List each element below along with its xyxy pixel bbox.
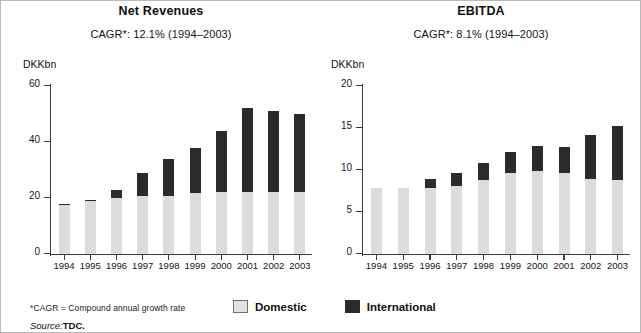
bar-2000 xyxy=(532,146,543,254)
bar-segment-international xyxy=(505,152,516,173)
bar-1998 xyxy=(163,159,174,254)
chart-subtitle-ebitda: CAGR*: 8.1% (1994–2003) xyxy=(321,28,641,40)
bar-2001 xyxy=(559,147,570,254)
x-tick-label: 1996 xyxy=(419,260,440,271)
x-tick-label: 1994 xyxy=(366,260,387,271)
y-tick-label: 0 xyxy=(346,246,352,257)
x-tick-label: 1999 xyxy=(185,260,206,271)
x-tick-label: 1999 xyxy=(500,260,521,271)
y-tick-label: 40 xyxy=(29,134,40,145)
bar-1995 xyxy=(85,200,96,254)
bar-segment-domestic xyxy=(242,192,253,254)
bar-segment-domestic xyxy=(111,198,122,254)
y-tick-label: 20 xyxy=(341,78,352,89)
bar-segment-domestic xyxy=(585,179,596,254)
plot-area-net-revenues: 0204060199419951996199719981999200020012… xyxy=(51,86,313,254)
chart-page: Net Revenues CAGR*: 12.1% (1994–2003) DK… xyxy=(0,0,641,333)
bar-segment-domestic xyxy=(371,188,382,254)
bar-segment-domestic xyxy=(59,205,70,254)
y-axis-unit-net-revenues: DKKbn xyxy=(23,58,56,70)
bar-1997 xyxy=(137,173,148,254)
legend-item-domestic: Domestic xyxy=(233,300,307,313)
bar-2003 xyxy=(294,114,305,254)
chart-panel-net-revenues: Net Revenues CAGR*: 12.1% (1994–2003) DK… xyxy=(1,1,321,291)
bar-segment-international xyxy=(190,148,201,193)
x-tick-label: 1998 xyxy=(158,260,179,271)
bar-segment-domestic xyxy=(190,193,201,254)
bar-segment-domestic xyxy=(216,192,227,254)
bar-segment-domestic xyxy=(559,173,570,254)
legend-label-domestic: Domestic xyxy=(255,301,307,313)
y-tick-label: 0 xyxy=(34,246,40,257)
bar-segment-domestic xyxy=(425,188,436,254)
y-tick-label: 10 xyxy=(341,162,352,173)
legend-item-international: International xyxy=(345,300,436,313)
chart-title-ebitda: EBITDA xyxy=(321,4,641,18)
bar-segment-domestic xyxy=(294,192,305,254)
x-tick-label: 2002 xyxy=(580,260,601,271)
legend-swatch-international-icon xyxy=(345,300,360,313)
y-tick: 0 xyxy=(44,253,51,254)
y-axis-line xyxy=(362,84,363,256)
bar-segment-international xyxy=(85,200,96,201)
bar-segment-domestic xyxy=(478,180,489,254)
cagr-footnote: *CAGR = Compound annual growth rate xyxy=(30,303,185,313)
x-tick-label: 2001 xyxy=(553,260,574,271)
y-tick: 10 xyxy=(356,169,363,170)
y-tick: 0 xyxy=(356,253,363,254)
bar-1998 xyxy=(478,163,489,254)
x-tick-label: 1996 xyxy=(106,260,127,271)
bar-segment-domestic xyxy=(451,186,462,254)
bar-segment-domestic xyxy=(532,171,543,254)
bar-1996 xyxy=(111,190,122,254)
x-tick-label: 2001 xyxy=(237,260,258,271)
bar-segment-international xyxy=(294,114,305,192)
bar-segment-international xyxy=(559,147,570,173)
bar-segment-domestic xyxy=(612,180,623,254)
bar-segment-domestic xyxy=(398,188,409,254)
bar-2002 xyxy=(585,135,596,254)
bar-2001 xyxy=(242,108,253,254)
bar-2002 xyxy=(268,111,279,254)
x-tick-label: 2000 xyxy=(211,260,232,271)
y-tick-label: 5 xyxy=(346,204,352,215)
y-tick-label: 15 xyxy=(341,120,352,131)
y-axis-unit-ebitda: DKKbn xyxy=(331,58,364,70)
bar-1994 xyxy=(371,188,382,254)
x-tick-label: 2003 xyxy=(289,260,310,271)
bar-segment-international xyxy=(163,159,174,196)
x-tick-label: 1998 xyxy=(473,260,494,271)
bar-segment-international xyxy=(59,204,70,205)
x-tick-label: 2000 xyxy=(527,260,548,271)
source-value: TDC. xyxy=(63,320,85,331)
bar-1997 xyxy=(451,173,462,254)
x-tick-label: 2003 xyxy=(607,260,628,271)
bar-segment-international xyxy=(612,126,623,180)
bar-segment-domestic xyxy=(505,173,516,254)
bar-segment-international xyxy=(242,108,253,191)
bar-segment-domestic xyxy=(137,196,148,254)
bar-segment-international xyxy=(137,173,148,196)
y-tick-label: 20 xyxy=(29,190,40,201)
x-tick-label: 1994 xyxy=(54,260,75,271)
bar-segment-international xyxy=(478,163,489,180)
bar-segment-domestic xyxy=(268,192,279,254)
chart-legend: Domestic International xyxy=(233,300,436,313)
chart-subtitle-net-revenues: CAGR*: 12.1% (1994–2003) xyxy=(1,28,321,40)
chart-panel-ebitda: EBITDA CAGR*: 8.1% (1994–2003) DKKbn 051… xyxy=(321,1,641,291)
bar-1999 xyxy=(190,148,201,254)
y-axis-line xyxy=(50,84,51,256)
bar-segment-international xyxy=(216,131,227,192)
plot-area-ebitda: 0510152019941995199619971998199920002001… xyxy=(363,86,631,254)
bar-1999 xyxy=(505,152,516,254)
legend-swatch-domestic-icon xyxy=(233,300,248,313)
bar-1995 xyxy=(398,188,409,254)
source-note: Source:TDC. xyxy=(30,320,85,331)
y-tick: 40 xyxy=(44,141,51,142)
y-tick: 5 xyxy=(356,211,363,212)
bar-1994 xyxy=(59,204,70,254)
bar-segment-international xyxy=(532,146,543,171)
x-tick-label: 2002 xyxy=(263,260,284,271)
bar-segment-international xyxy=(451,173,462,186)
x-tick-label: 1997 xyxy=(446,260,467,271)
